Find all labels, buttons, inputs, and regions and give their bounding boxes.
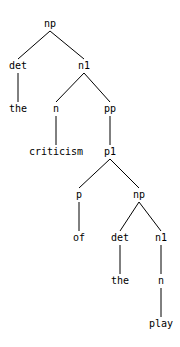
node-np-root: np <box>44 19 56 29</box>
leaf-the: the <box>9 104 27 114</box>
tree-edge <box>56 73 84 102</box>
node-n-inner: n <box>158 276 164 286</box>
tree-edge <box>84 73 110 102</box>
node-det-inner: det <box>111 233 129 243</box>
tree-edge <box>110 159 139 188</box>
leaf-play: play <box>149 319 173 329</box>
tree-edge <box>18 31 50 59</box>
leaf-the-inner: the <box>111 276 129 286</box>
node-n1: n1 <box>78 61 90 71</box>
node-n1-inner: n1 <box>155 233 167 243</box>
node-p1: p1 <box>104 147 116 157</box>
tree-edge <box>120 202 139 231</box>
node-n: n <box>53 104 59 114</box>
node-det: det <box>9 61 27 71</box>
tree-edge <box>50 31 84 59</box>
leaf-of: of <box>73 233 85 243</box>
parse-tree: np det n1 the n pp criticism p1 p np of … <box>0 0 180 347</box>
tree-edges <box>0 0 180 347</box>
node-p: p <box>76 190 82 200</box>
leaf-criticism: criticism <box>29 147 83 157</box>
node-np-inner: np <box>133 190 145 200</box>
tree-edge <box>139 202 161 231</box>
tree-edge <box>79 159 110 188</box>
node-pp: pp <box>104 104 116 114</box>
